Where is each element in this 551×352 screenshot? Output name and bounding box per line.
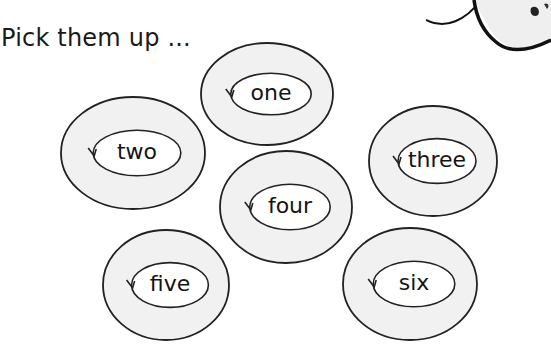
ring-six[interactable]: six xyxy=(342,227,478,341)
ring-five[interactable]: five xyxy=(102,229,230,341)
ring-label: one xyxy=(231,82,311,104)
flower-illustration-icon xyxy=(426,0,551,55)
ring-one[interactable]: one xyxy=(200,42,334,146)
ring-label: four xyxy=(250,195,330,217)
page-title: Pick them up ... xyxy=(1,26,191,50)
ring-label: five xyxy=(132,273,209,295)
ring-label: three xyxy=(398,149,476,171)
ring-four[interactable]: four xyxy=(219,150,353,264)
ring-label: six xyxy=(373,272,455,294)
ring-label: two xyxy=(93,141,181,163)
ring-two[interactable]: two xyxy=(60,96,206,210)
ring-three[interactable]: three xyxy=(368,105,498,217)
